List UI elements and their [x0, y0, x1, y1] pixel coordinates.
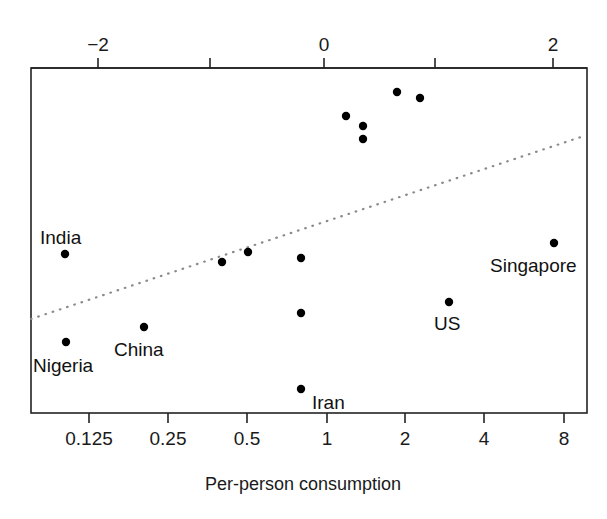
data-point-labels: IndiaNigeriaChinaIranUSSingapore [33, 227, 577, 413]
bottom-tick-label: 1 [322, 428, 333, 449]
data-point [359, 122, 367, 130]
fit-line [31, 137, 581, 319]
x-axis-title: Per-person consumption [205, 474, 401, 494]
data-point [550, 239, 558, 247]
scatter-plot-figure: −202 IndiaNigeriaChinaIranUSSingapore 0.… [0, 0, 607, 519]
top-axis: −202 [31, 34, 587, 68]
bottom-tick-label: 0.125 [65, 428, 113, 449]
plot-canvas: −202 IndiaNigeriaChinaIranUSSingapore 0.… [0, 0, 607, 519]
bottom-tick-label: 0.25 [150, 428, 187, 449]
data-point [62, 338, 70, 346]
plot-frame [31, 68, 587, 413]
bottom-axis-tick-labels: 0.1250.250.51248 [65, 428, 569, 449]
data-point [140, 323, 148, 331]
data-point [342, 112, 350, 120]
data-point-label: Singapore [490, 255, 577, 276]
top-tick-label: −2 [87, 34, 109, 55]
data-point [393, 88, 401, 96]
data-point [416, 94, 424, 102]
top-axis-tick-labels: −202 [87, 34, 558, 55]
bottom-tick-label: 4 [479, 428, 490, 449]
data-point [445, 298, 453, 306]
top-tick-label: 2 [548, 34, 559, 55]
bottom-tick-label: 2 [400, 428, 411, 449]
bottom-tick-label: 8 [559, 428, 570, 449]
data-point-label: Iran [312, 392, 345, 413]
data-point [218, 258, 226, 266]
data-point [297, 309, 305, 317]
data-point [359, 135, 367, 143]
bottom-axis-ticks [89, 413, 564, 423]
bottom-axis: 0.1250.250.51248 [65, 413, 569, 449]
bottom-tick-label: 0.5 [234, 428, 260, 449]
data-point [297, 385, 305, 393]
data-point [244, 248, 252, 256]
data-point-label: China [114, 339, 164, 360]
top-tick-label: 0 [319, 34, 330, 55]
data-point-label: India [40, 227, 82, 248]
data-point-label: Nigeria [33, 355, 94, 376]
data-point [297, 254, 305, 262]
data-point-label: US [434, 313, 460, 334]
top-axis-ticks [98, 58, 553, 68]
data-point [61, 250, 69, 258]
